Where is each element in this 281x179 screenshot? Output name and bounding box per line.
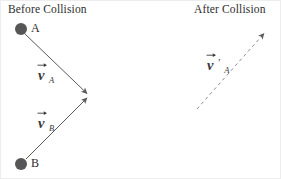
ball-a-label: A [31,22,40,34]
vector-symbol-v-b: v [38,116,44,131]
vector-subscript-v-b: B [49,124,54,133]
ball-b [15,158,27,170]
ball-a [15,23,27,35]
vector-symbol-v-a-prime: v [207,58,213,73]
vector-symbol-v-a: v [38,68,44,83]
vector-label-v-a: v A [38,67,54,85]
vector-arrow-v-b [26,98,87,159]
vector-label-v-b: v B [38,115,54,133]
ball-b-label: B [31,157,39,169]
vector-subscript-v-a: A [49,76,54,85]
vector-prime-mark: ' [217,57,219,68]
vector-subscript-v-a-prime: A [224,66,229,75]
vector-label-v-a-prime: v ' A [207,57,230,75]
vector-arrow-v-a [25,34,87,94]
collision-diagram: Before Collision After Collision A B v A… [0,0,281,179]
vector-arrows-layer [1,1,281,179]
